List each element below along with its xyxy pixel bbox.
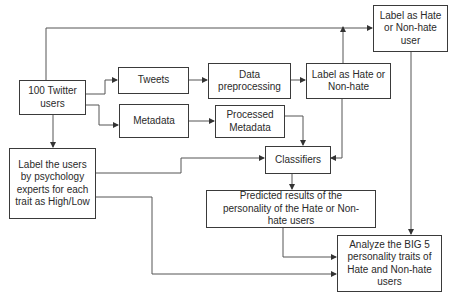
node-metadata: Metadata	[119, 104, 189, 138]
node-classifiers: Classifiers	[265, 146, 331, 174]
node-label-hate: Label as Hate or Non-hate	[306, 63, 391, 99]
node-analyze-big5: Analyze the BIG 5 personality traits of …	[337, 235, 442, 292]
edge-predicted-to-analyze	[283, 227, 336, 257]
node-processed-metadata: Processed Metadata	[215, 105, 285, 138]
node-psych-label: Label the users by psychology experts fo…	[9, 148, 96, 219]
edge-label-to-classifiers	[331, 98, 342, 158]
node-twitter-users: 100 Twitter users	[19, 80, 86, 115]
node-data-preprocessing: Data preprocessing	[208, 63, 291, 99]
edge-users-to-metadata	[85, 105, 118, 125]
edge-psych-to-classifiers	[95, 158, 264, 173]
edge-processed-to-classifiers	[284, 116, 303, 145]
edge-users-to-tweets	[85, 80, 117, 94]
node-predicted-results: Predicted results of the personality of …	[206, 190, 376, 228]
node-label-hate-user: Label as Hate or Non-hate user	[373, 5, 448, 52]
node-tweets: Tweets	[118, 67, 189, 94]
